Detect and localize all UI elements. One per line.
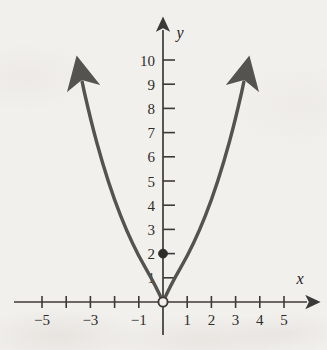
x-label-5: 5 (280, 312, 288, 328)
x-label--5: −5 (34, 312, 50, 328)
x-label-3: 3 (232, 312, 240, 328)
x-axis-tick-labels: −5 −3 −1 1 2 3 4 5 (34, 312, 288, 328)
x-label-1: 1 (183, 312, 191, 328)
x-label--1: −1 (131, 312, 147, 328)
y-axis-label: y (174, 24, 184, 42)
y-label-2: 2 (148, 246, 156, 262)
y-label-8: 8 (148, 101, 156, 117)
axes-group (14, 30, 307, 335)
y-label-9: 9 (148, 77, 156, 93)
y-axis-tick-labels: 1 2 3 4 5 6 7 8 9 10 (140, 53, 156, 287)
graph-canvas: −5 −3 −1 1 2 3 4 5 1 2 3 4 5 6 7 8 9 10 … (0, 0, 327, 350)
y-label-5: 5 (148, 174, 156, 190)
y-label-3: 3 (148, 222, 156, 238)
y-label-6: 6 (148, 149, 156, 165)
y-axis-ticks (163, 60, 175, 278)
x-label-2: 2 (208, 312, 216, 328)
x-axis-label: x (295, 270, 303, 287)
x-label--3: −3 (82, 312, 98, 328)
x-label-4: 4 (256, 312, 264, 328)
axis-name-labels: x y (174, 24, 303, 287)
parabola-right-branch (163, 82, 244, 302)
filled-point-0-2 (159, 249, 168, 258)
y-label-4: 4 (148, 198, 156, 214)
y-label-7: 7 (148, 125, 156, 141)
y-label-10: 10 (140, 53, 155, 69)
open-circle-origin-point (158, 297, 167, 306)
